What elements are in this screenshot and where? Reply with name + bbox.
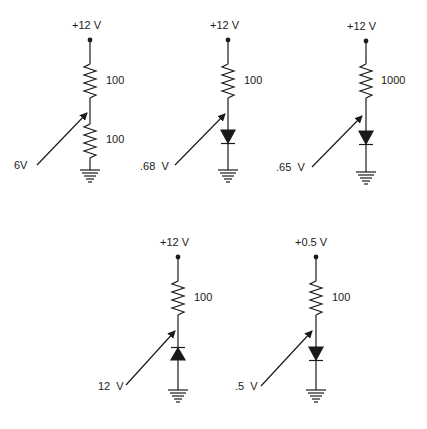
resistor-value-1a: 100	[106, 75, 124, 86]
diode-icon	[309, 347, 323, 361]
ground-icon	[218, 170, 238, 182]
diode-icon	[359, 131, 373, 145]
ground-icon	[168, 390, 188, 402]
resistor-value-5: 100	[332, 292, 350, 303]
supply-label-3: +12 V	[347, 21, 376, 32]
supply-label-4: +12 V	[160, 237, 189, 248]
probe-label-3: .65 V	[276, 162, 305, 173]
supply-label-5: +0.5 V	[295, 237, 327, 248]
resistor-icon	[222, 64, 234, 98]
resistor-icon	[172, 281, 184, 315]
supply-label-1: +12 V	[72, 20, 101, 31]
probe-arrow	[175, 114, 225, 165]
circuit-3	[312, 39, 376, 184]
probe-label-4: 12 V	[98, 381, 124, 392]
probe-arrow	[126, 331, 175, 385]
diode-icon	[171, 348, 185, 361]
resistor-icon	[84, 124, 96, 158]
probe-label-5: .5 V	[235, 381, 258, 392]
resistor-icon	[360, 64, 372, 98]
diode-icon	[221, 130, 235, 144]
ground-icon	[306, 390, 326, 402]
resistor-value-4: 100	[194, 292, 212, 303]
resistor-icon	[84, 64, 96, 98]
circuit-1	[37, 38, 100, 182]
circuit-4	[126, 255, 188, 402]
supply-label-2: +12 V	[210, 20, 239, 31]
resistor-value-3: 1000	[381, 75, 405, 86]
probe-label-1: 6V	[14, 160, 27, 171]
probe-arrow	[37, 113, 87, 165]
circuit-diagram	[0, 0, 427, 429]
ground-icon	[80, 170, 100, 182]
probe-arrow	[261, 331, 312, 386]
circuit-2	[175, 38, 238, 182]
resistor-icon	[310, 281, 322, 315]
probe-arrow	[312, 116, 362, 167]
ground-icon	[356, 172, 376, 184]
probe-label-2: .68 V	[140, 161, 169, 172]
resistor-value-2: 100	[244, 75, 262, 86]
circuit-5	[261, 255, 326, 402]
resistor-value-1b: 100	[106, 134, 124, 145]
